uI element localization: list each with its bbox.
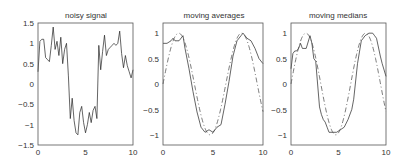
- x-tick-label: 10: [382, 148, 391, 157]
- x-tick-label: 10: [129, 148, 138, 157]
- plot-area: [38, 27, 133, 135]
- panel-moving-medians: moving medians 1 0.5 0 −0.5 −1 0 5 10: [271, 11, 391, 157]
- panel-title: moving averages: [184, 11, 245, 20]
- x-tick-label: 10: [259, 148, 268, 157]
- panel-title: noisy signal: [65, 11, 107, 20]
- y-tick-label: −1: [25, 121, 35, 130]
- data-line: [163, 33, 263, 132]
- y-tick-label: 1: [155, 29, 160, 38]
- y-tick-label: −1.5: [18, 141, 34, 150]
- x-tick-label: 5: [336, 148, 341, 157]
- y-tick-labels: 1 0.5 0 −0.5 −1: [143, 29, 159, 140]
- y-tick-label: −0.5: [18, 100, 34, 109]
- panel-noisy-signal: noisy signal 1.5 1 0.5 0 −0.5 −1 −1.5 0 …: [18, 11, 138, 157]
- panel-moving-averages: moving averages 1 0.5 0 −0.5 −1 0 5 10: [143, 11, 268, 157]
- panel-title: moving medians: [309, 11, 367, 20]
- x-tick-labels: 0 5 10: [289, 148, 391, 157]
- y-tick-label: 1: [30, 39, 35, 48]
- plot-area: [163, 33, 263, 135]
- y-tick-label: 0: [155, 80, 160, 89]
- y-tick-label: 1.5: [23, 19, 35, 28]
- y-tick-label: 1: [283, 29, 288, 38]
- y-tick-labels: 1.5 1 0.5 0 −0.5 −1 −1.5: [18, 19, 34, 150]
- y-tick-label: 0.5: [23, 60, 35, 69]
- plot-area: [291, 33, 386, 135]
- axes-frame: [163, 23, 263, 145]
- y-tick-label: 0: [30, 80, 35, 89]
- y-tick-label: 0.5: [276, 55, 288, 64]
- reference-sine-line: [163, 33, 263, 135]
- y-tick-label: 0.5: [148, 55, 160, 64]
- y-tick-label: −0.5: [143, 106, 159, 115]
- x-tick-label: 0: [36, 148, 41, 157]
- figure: noisy signal 1.5 1 0.5 0 −0.5 −1 −1.5 0 …: [0, 0, 406, 161]
- x-tick-label: 0: [161, 148, 166, 157]
- x-tick-label: 5: [83, 148, 88, 157]
- y-tick-label: −0.5: [271, 106, 287, 115]
- y-tick-label: −1: [150, 131, 160, 140]
- data-line: [291, 33, 386, 132]
- axes-frame: [38, 23, 133, 145]
- x-tick-label: 5: [211, 148, 216, 157]
- data-line: [38, 27, 133, 135]
- y-tick-labels: 1 0.5 0 −0.5 −1: [271, 29, 287, 140]
- y-tick-label: −1: [278, 131, 288, 140]
- x-tick-labels: 0 5 10: [36, 148, 138, 157]
- y-tick-label: 0: [283, 80, 288, 89]
- x-tick-label: 0: [289, 148, 294, 157]
- x-tick-labels: 0 5 10: [161, 148, 268, 157]
- axes-frame: [291, 23, 386, 145]
